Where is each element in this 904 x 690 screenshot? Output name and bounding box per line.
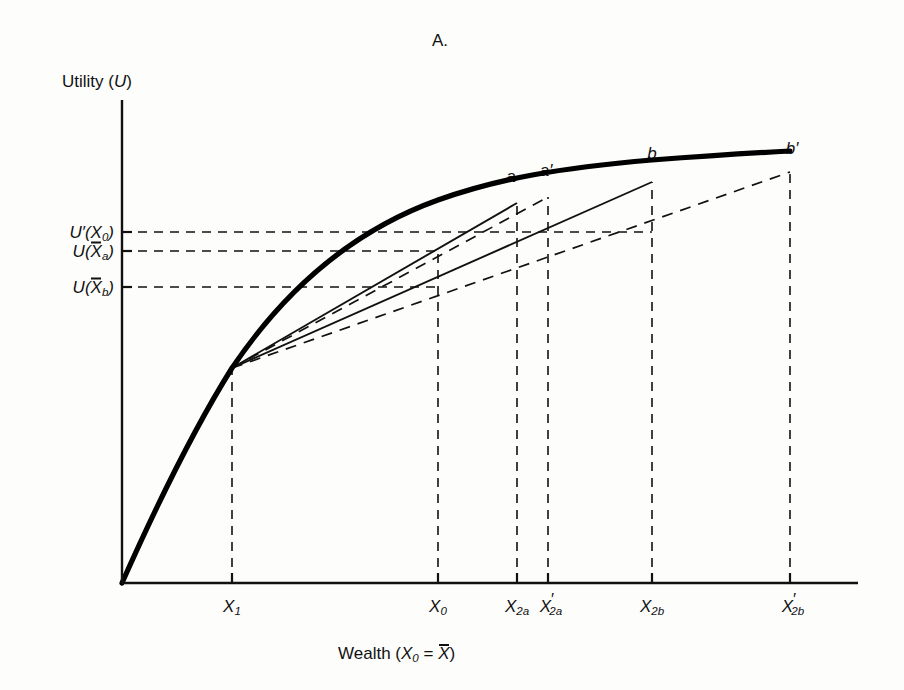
chart-canvas [0, 0, 904, 690]
chord-x1-to-b [232, 182, 652, 368]
solid-chords-group [232, 182, 652, 368]
utility-curve [122, 151, 790, 583]
utility-function-figure: A. Utility (U) Wealth (X0 = X) U′(X0) U(… [0, 0, 904, 690]
reference-lines-group [122, 172, 790, 583]
tick-marks-group [122, 232, 790, 583]
